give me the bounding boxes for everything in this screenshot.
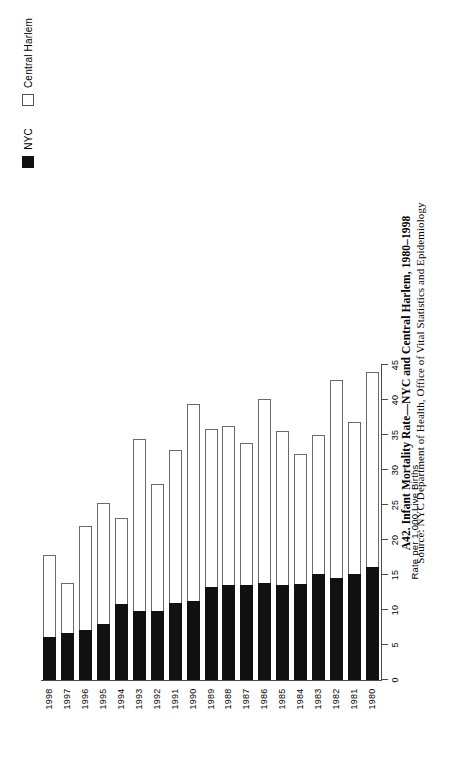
value-axis-tick (382, 504, 388, 505)
value-axis-line (381, 364, 382, 680)
legend-item-nyc: NYC (22, 128, 34, 168)
bar-segment-nyc (43, 637, 56, 680)
legend-label-central-harlem: Central Harlem (23, 18, 34, 88)
value-axis-tick (382, 644, 388, 645)
category-label: 1987 (241, 684, 251, 714)
value-axis-tick-label: 25 (390, 490, 400, 520)
value-axis-tick (382, 609, 388, 610)
category-label: 1988 (223, 684, 233, 714)
chart-source-note: Source: NYC Department of Health, Office… (414, 0, 426, 766)
bar-segment-nyc (151, 611, 164, 680)
bar-segment-nyc (79, 630, 92, 680)
category-label: 1981 (349, 684, 359, 714)
bar-group (169, 365, 182, 680)
value-axis-tick-label: 0 (390, 665, 400, 695)
caption-block: A42. Infant Mortality Rate—NYC and Centr… (400, 0, 426, 766)
bar-segment-nyc (222, 586, 235, 681)
category-label: 1998 (44, 684, 54, 714)
value-axis-tick (382, 399, 388, 400)
category-label: 1989 (206, 684, 216, 714)
plot-area (41, 365, 381, 680)
legend-label-nyc: NYC (23, 128, 34, 150)
bar-segment-nyc (133, 611, 146, 680)
value-axis-tick (382, 679, 388, 680)
value-axis-tick-label: 35 (390, 420, 400, 450)
bar-group (61, 365, 74, 680)
category-label: 1996 (80, 684, 90, 714)
category-label: 1994 (116, 684, 126, 714)
outlined-square-icon (22, 94, 34, 106)
bar-group (151, 365, 164, 680)
category-label: 1995 (98, 684, 108, 714)
bar-segment-nyc (97, 624, 110, 680)
caption-block-canvas: A42. Infant Mortality Rate—NYC and Centr… (400, 0, 468, 766)
value-axis-tick (382, 434, 388, 435)
bar-group (205, 365, 218, 680)
category-label: 1980 (367, 684, 377, 714)
value-axis-tick (382, 539, 388, 540)
category-label: 1986 (259, 684, 269, 714)
category-label: 1993 (134, 684, 144, 714)
category-label: 1997 (62, 684, 72, 714)
legend-item-central-harlem: Central Harlem (22, 18, 34, 106)
bar-segment-nyc (240, 585, 253, 680)
bar-group (348, 365, 361, 680)
bar-group (79, 365, 92, 680)
bar-group (115, 365, 128, 680)
value-axis-tick (382, 574, 388, 575)
chart-title: A42. Infant Mortality Rate—NYC and Centr… (400, 0, 412, 766)
value-axis-tick-label: 45 (390, 350, 400, 380)
bar-segment-nyc (61, 633, 74, 680)
category-label: 1992 (152, 684, 162, 714)
rotated-figure-canvas: NYC Central Harlem 051015202530354045 19… (0, 0, 468, 766)
bar-segment-nyc (276, 585, 289, 680)
value-axis-tick (382, 364, 388, 365)
value-axis-tick-label: 10 (390, 595, 400, 625)
category-label: 1990 (188, 684, 198, 714)
bar-segment-nyc (330, 579, 343, 681)
category-label: 1982 (331, 684, 341, 714)
value-axis-tick-label: 40 (390, 385, 400, 415)
value-axis-tick (382, 469, 388, 470)
value-axis-tick-label: 15 (390, 560, 400, 590)
bar-group (294, 365, 307, 680)
bar-group (312, 365, 325, 680)
bar-group (187, 365, 200, 680)
bar-group (240, 365, 253, 680)
chart-legend: NYC Central Harlem (22, 18, 34, 168)
bar-segment-nyc (169, 603, 182, 680)
bar-group (258, 365, 271, 680)
category-axis-line (41, 680, 382, 681)
bar-group (366, 365, 379, 680)
bar-segment-nyc (348, 574, 361, 680)
bar-segment-nyc (294, 584, 307, 680)
value-axis-tick-label: 30 (390, 455, 400, 485)
bar-group (133, 365, 146, 680)
bar-group (97, 365, 110, 680)
category-label: 1984 (295, 684, 305, 714)
filled-square-icon (22, 156, 34, 168)
value-axis-tick-label: 20 (390, 525, 400, 555)
category-label: 1985 (277, 684, 287, 714)
bar-segment-nyc (115, 604, 128, 680)
bar-segment-nyc (258, 583, 271, 680)
bar-group (276, 365, 289, 680)
bar-segment-nyc (205, 587, 218, 680)
bar-group (222, 365, 235, 680)
bar-segment-nyc (366, 567, 379, 680)
bar-segment-nyc (187, 601, 200, 680)
category-label: 1991 (170, 684, 180, 714)
category-label: 1983 (313, 684, 323, 714)
value-axis-tick-label: 5 (390, 630, 400, 660)
bar-group (330, 365, 343, 680)
chart-figure: NYC Central Harlem 051015202530354045 19… (0, 0, 468, 766)
bar-group (43, 365, 56, 680)
bar-segment-nyc (312, 574, 325, 680)
